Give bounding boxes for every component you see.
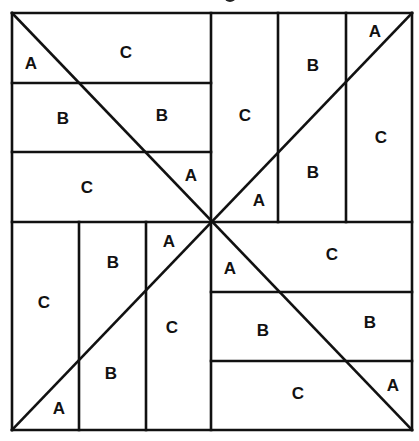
region-label-c: C: [38, 294, 50, 311]
region-label-c: C: [81, 179, 93, 196]
region-label-c: C: [326, 246, 338, 263]
region-label-c: C: [239, 107, 251, 124]
quilt-block-diagram: [0, 0, 419, 441]
region-label-a: A: [163, 233, 175, 250]
region-label-a: A: [25, 55, 37, 72]
region-label-b: B: [257, 322, 269, 339]
region-label-c: C: [292, 385, 304, 402]
region-label-a: A: [185, 167, 197, 184]
region-label-b: B: [307, 57, 319, 74]
region-label-c: C: [166, 319, 178, 336]
region-label-b: B: [107, 254, 119, 271]
region-label-b: B: [307, 164, 319, 181]
region-label-c: C: [375, 129, 387, 146]
region-label-a: A: [253, 192, 265, 209]
region-label-c: C: [120, 44, 132, 61]
region-label-b: B: [156, 107, 168, 124]
region-label-b: B: [364, 314, 376, 331]
region-label-b: B: [57, 110, 69, 127]
region-label-a: A: [387, 377, 399, 394]
region-label-a: A: [224, 260, 236, 277]
region-label-a: A: [53, 400, 65, 417]
region-label-a: A: [369, 23, 381, 40]
region-label-b: B: [105, 365, 117, 382]
